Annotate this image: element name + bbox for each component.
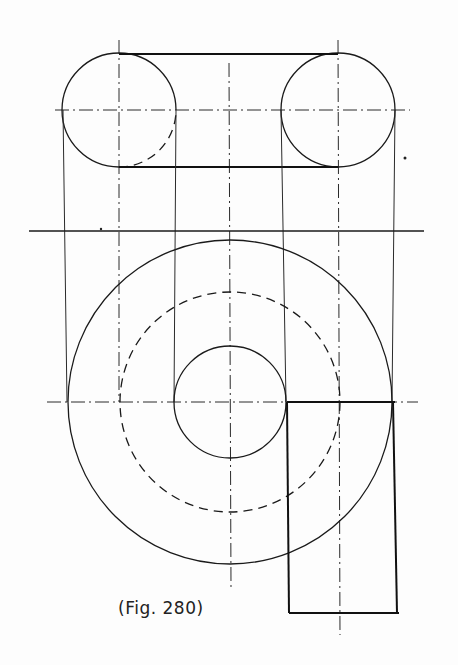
ink-speck [100, 228, 102, 230]
right-circle-vertical-centerline [338, 40, 340, 635]
front-view [47, 240, 418, 613]
projector-line-5 [281, 110, 286, 402]
projector-line-7 [392, 110, 395, 402]
rectangle-right-edge [393, 402, 397, 613]
left-circle-hidden-arc [119, 110, 176, 167]
drawing-canvas: (Fig. 280) [0, 0, 458, 665]
ink-speck [404, 157, 407, 160]
top-view [55, 40, 410, 635]
projector-line-1 [63, 110, 67, 402]
rectangle-left-edge [287, 402, 289, 613]
projector-line-3 [174, 110, 176, 402]
figure-caption: (Fig. 280) [118, 598, 204, 618]
technical-drawing [0, 0, 458, 665]
main-vertical-centerline [229, 63, 231, 587]
